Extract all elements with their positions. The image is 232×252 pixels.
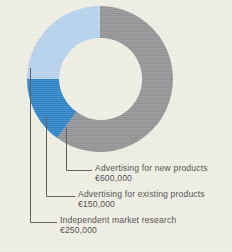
legend-value: €250,000 — [60, 226, 176, 235]
figure-canvas: Advertising for new products €600,000 Ad… — [0, 0, 232, 252]
donut-slice-independent-market-research[interactable] — [27, 6, 100, 79]
legend-value: €150,000 — [78, 200, 205, 209]
legend-label: Independent market research — [60, 216, 176, 225]
legend-item-advertising-new-products[interactable]: Advertising for new products €600,000 — [95, 164, 208, 184]
legend-item-advertising-existing-products[interactable]: Advertising for existing products €150,0… — [78, 190, 205, 210]
legend-label: Advertising for new products — [95, 164, 208, 173]
legend-label: Advertising for existing products — [78, 190, 205, 199]
legend-item-independent-market-research[interactable]: Independent market research €250,000 — [60, 216, 176, 236]
legend-value: €600,000 — [95, 174, 208, 183]
